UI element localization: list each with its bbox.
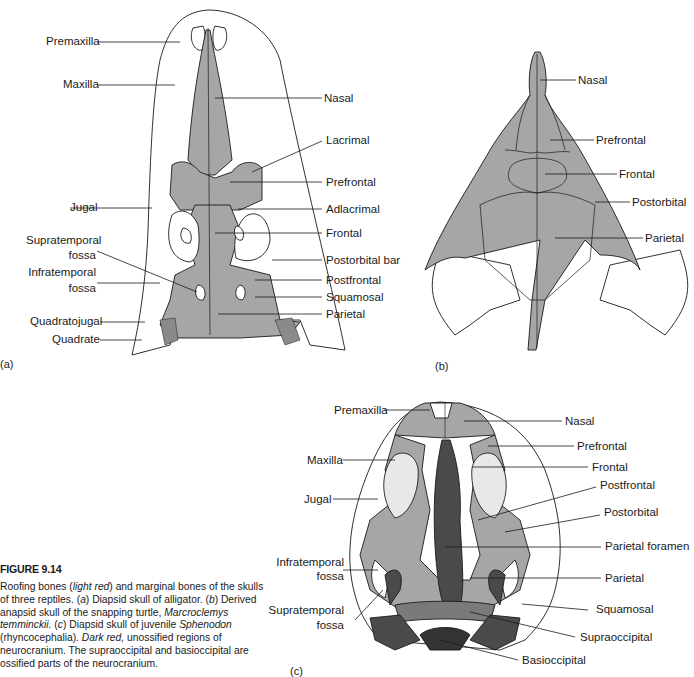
skull-a-alligator [132,10,345,355]
figure-number: FIGURE 9.14 [0,563,248,575]
label-basioccipital-c: Basioccipital [522,654,586,667]
label-parietal-b: Parietal [645,232,684,245]
label-prefrontal-c: Prefrontal [577,440,627,453]
label-squamosal: Squamosal [326,291,384,304]
label-frontal-b: Frontal [619,168,655,181]
panel-tag-a: (a) [0,358,13,370]
label-postorbital-b: Postorbital [632,196,686,209]
label-nasal: Nasal [324,92,353,105]
label-premaxilla-c: Premaxilla [334,404,388,417]
label-parietal-foramen-c: Parietal foramen [605,540,689,553]
label-squamosal-c: Squamosal [596,603,654,616]
label-quadratojugal: Quadratojugal [30,315,102,328]
figure-caption: FIGURE 9.14 Roofing bones (light red) an… [0,563,270,671]
label-lacrimal: Lacrimal [326,134,369,147]
label-prefrontal: Prefrontal [326,176,376,189]
label-infratemporal-c: Infratemporal [264,556,344,569]
label-postorbital-bar: Postorbital bar [326,254,400,267]
label-postfrontal-c: Postfrontal [600,479,655,492]
panel-tag-c: (c) [290,665,303,677]
label-maxilla: Maxilla [63,78,99,91]
label-infratemporal: Infratemporal [20,266,96,279]
label-frontal-c: Frontal [592,461,628,474]
label-supratemporal: Supratemporal [26,234,96,247]
label-quadrate: Quadrate [52,333,100,346]
label-parietal-c: Parietal [605,572,644,585]
label-infratemporal-fossa-c: fossa [264,570,344,583]
label-jugal-c: Jugal [304,493,332,506]
skull-c-sphenodon [350,402,560,650]
label-adlacrimal: Adlacrimal [326,203,380,216]
label-nasal-c: Nasal [565,415,594,428]
label-premaxilla: Premaxilla [46,35,100,48]
caption-text: Roofing bones (light red) and marginal b… [0,581,270,671]
panel-tag-b: (b) [435,360,448,372]
label-supratemporal-fossa: fossa [26,249,96,262]
label-maxilla-c: Maxilla [307,454,343,467]
label-jugal: Jugal [70,201,98,214]
label-prefrontal-b: Prefrontal [596,134,646,147]
label-postfrontal: Postfrontal [326,274,381,287]
label-supratemporal-fossa-c: fossa [264,619,344,632]
label-frontal: Frontal [326,227,362,240]
label-supratemporal-c: Supratemporal [264,604,344,617]
label-postorbital-c: Postorbital [604,506,658,519]
label-supraoccipital-c: Supraoccipital [580,631,652,644]
label-nasal-b: Nasal [578,74,607,87]
label-infratemporal-fossa: fossa [20,282,96,295]
label-parietal: Parietal [326,308,365,321]
